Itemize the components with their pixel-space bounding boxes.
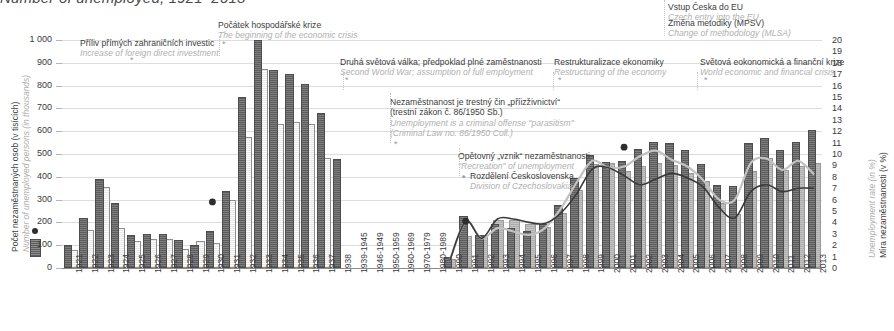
annotation-cz: Vstup Česka do EU	[668, 2, 759, 12]
x-tick-1938: 1938	[343, 254, 353, 273]
annotation-rule-3	[459, 148, 460, 176]
y-right-tick-13: 13	[832, 115, 856, 125]
y-right-tick-11: 11	[832, 138, 856, 148]
annotation-rule-0	[219, 36, 220, 56]
annotation-1997: Restrukturalizace ekonomikyRestructuring…	[554, 57, 666, 78]
annotation-marker-1993: *	[462, 174, 466, 183]
y-right-tick-3: 3	[832, 229, 856, 239]
annotation-cz: Světová eokonomická a finanční krize	[700, 57, 844, 67]
annotation-cz: Nezaměstnanost je trestný čin „příizživn…	[390, 97, 574, 107]
y-left-tick-500: 500	[12, 148, 52, 158]
x-tick-1996: 1996	[549, 254, 559, 273]
x-tick-1925: 1925	[137, 254, 147, 273]
y-left-tickmark	[56, 154, 62, 155]
x-tick-2001: 2001	[628, 254, 638, 273]
y-right-tick-12: 12	[832, 126, 856, 136]
x-tick-1933: 1933	[264, 254, 274, 273]
x-tick-2000: 2000	[612, 254, 622, 273]
annotation-en: Division of Czechoslovakia	[470, 181, 574, 191]
annotation-rule-2	[390, 93, 391, 143]
right-axis-title-cz: Míra nezaměstnanosti (v %)	[878, 152, 888, 258]
y-right-tick-7: 7	[832, 183, 856, 193]
y-right-tick-10: 10	[832, 149, 856, 159]
annotation-en-2: (Criminal Law no. 86/1950 Coll.)	[390, 128, 574, 138]
x-tick-2010: 2010	[771, 254, 781, 273]
y-left-tick-900: 900	[12, 57, 52, 67]
annotation-rule-1	[343, 72, 344, 90]
annotation-cz: Druhá světová válka; předpoklad plné zam…	[340, 57, 542, 67]
x-tick-1923: 1923	[106, 254, 116, 273]
x-tick-1998: 1998	[581, 254, 591, 273]
page-title: Number of unemployed, 1921–2013	[0, 0, 246, 6]
y-left-tickmark	[56, 40, 62, 41]
y-right-tick-14: 14	[832, 103, 856, 113]
rate-point-1930	[209, 198, 216, 205]
x-tick-2007: 2007	[723, 254, 733, 273]
annotation-en: Unemployment is a criminal offense "para…	[390, 118, 574, 128]
y-left-tick-0: 0	[12, 262, 52, 272]
annotation-rule-6	[664, 0, 665, 36]
annotation-cz: Rozdělení Československa	[470, 171, 574, 181]
annotation-marker-1997: *	[558, 76, 562, 85]
x-tick-1926: 1926	[153, 254, 163, 273]
x-tick-1936: 1936	[311, 254, 321, 273]
x-tick-2006: 2006	[707, 254, 717, 273]
x-tick-1990: 1990	[454, 254, 464, 273]
y-left-tickmark	[56, 63, 62, 64]
x-tick-1924: 1924	[121, 254, 131, 273]
y-left-tick-800: 800	[12, 80, 52, 90]
x-tick-1937: 1937	[327, 254, 337, 273]
x-tick-1931: 1931	[232, 254, 242, 273]
x-tick-1934: 1934	[280, 254, 290, 273]
annotation-en: Change of methodology (MLSA)	[668, 28, 791, 38]
annotation-2008: Světová eokonomická a finanční krizeWorl…	[700, 57, 844, 78]
annotation-1930: Počátek hospodářské krizeThe beginning o…	[218, 20, 358, 41]
x-tick-2003: 2003	[660, 254, 670, 273]
y-left-tick-700: 700	[12, 102, 52, 112]
annotation-en: Second World War; assumption of full emp…	[340, 67, 542, 77]
x-tick-1930: 1930	[216, 254, 226, 273]
rate-point-2001	[621, 144, 628, 151]
y-left-tick-300: 300	[12, 194, 52, 204]
y-left-tickmark	[56, 177, 62, 178]
x-tick-1946-1949: 1946-1949	[375, 232, 385, 273]
annotation-marker-1939: *	[345, 76, 349, 85]
annotation-en: Increase of foreign direct investment	[80, 48, 219, 58]
y-right-tick-5: 5	[832, 206, 856, 216]
y-left-tickmark	[56, 86, 62, 87]
x-tick-2002: 2002	[644, 254, 654, 273]
x-tick-1994: 1994	[517, 254, 527, 273]
x-tick-2008: 2008	[739, 254, 749, 273]
annotation-1939: Druhá světová válka; předpoklad plné zam…	[340, 57, 542, 78]
annotation-cz-2: (trestní zákon č. 86/1950 Sb.)	[390, 107, 574, 117]
annotation-2004: Změna metodiky (MPSV)Change of methodolo…	[668, 18, 791, 39]
x-tick-1991: 1991	[470, 254, 480, 273]
x-tick-1960-1969: 1960-1969	[406, 232, 416, 273]
annotation-cz: Příliv přímých zahraničních investic	[80, 38, 219, 48]
x-tick-1995: 1995	[533, 254, 543, 273]
y-right-tick-8: 8	[832, 172, 856, 182]
y-right-tick-16: 16	[832, 81, 856, 91]
y-right-tick-2: 2	[832, 240, 856, 250]
annotation-cz: Změna metodiky (MPSV)	[668, 18, 791, 28]
x-tick-1928: 1928	[185, 254, 195, 273]
y-left-tickmark	[56, 131, 62, 132]
y-left-tick-600: 600	[12, 125, 52, 135]
x-tick-1980-1989: 1980-1989	[438, 232, 448, 273]
y-right-tick-15: 15	[832, 92, 856, 102]
x-tick-1929: 1929	[201, 254, 211, 273]
x-tick-2012: 2012	[802, 254, 812, 273]
y-left-tickmark	[56, 200, 62, 201]
right-axis-title-en: Unemployment rate (in %)	[867, 159, 877, 258]
annotation-cz: Počátek hospodářské krize	[218, 20, 358, 30]
annotation-en: The beginning of the economic crisis	[218, 30, 358, 40]
annotation-marker-1930: *	[222, 40, 226, 49]
y-right-tick-6: 6	[832, 195, 856, 205]
x-tick-1922: 1922	[90, 254, 100, 273]
annotation-1990: Opětovný „vznik“ nezaměstnanosti"Recreat…	[458, 151, 590, 172]
annotation-en: Restructuring of the economy	[554, 67, 666, 77]
x-tick-1950-1959: 1950-1959	[391, 232, 401, 273]
y-left-tickmark	[56, 268, 62, 269]
y-right-tick-19: 19	[832, 46, 856, 56]
x-tick-2011: 2011	[786, 255, 796, 273]
